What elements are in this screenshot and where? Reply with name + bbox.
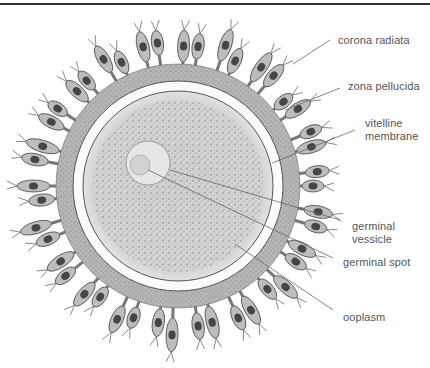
leader-line-corona-radiata xyxy=(293,40,330,64)
label-text: vessicle xyxy=(352,233,395,246)
label-zona-pellucida: zona pellucida xyxy=(348,80,420,93)
label-text: membrane xyxy=(365,130,418,143)
label-text: germinal spot xyxy=(343,256,410,268)
label-vitelline-membrane: vitelline membrane xyxy=(365,117,418,143)
label-germinal-vessicle: germinal vessicle xyxy=(352,220,395,246)
label-text: corona radiata xyxy=(338,34,410,46)
ovum-diagram: corona radiata zona pellucida vitelline … xyxy=(0,0,430,368)
label-corona-radiata: corona radiata xyxy=(338,34,410,47)
label-text: ooplasm xyxy=(343,311,385,323)
label-text: zona pellucida xyxy=(348,80,420,92)
label-text: vitelline xyxy=(365,117,418,130)
label-germinal-spot: germinal spot xyxy=(343,256,410,269)
leader-line-zona-pellucida xyxy=(285,88,340,110)
label-text: germinal xyxy=(352,220,395,233)
germinal-spot xyxy=(130,155,150,175)
label-ooplasm: ooplasm xyxy=(343,311,385,324)
